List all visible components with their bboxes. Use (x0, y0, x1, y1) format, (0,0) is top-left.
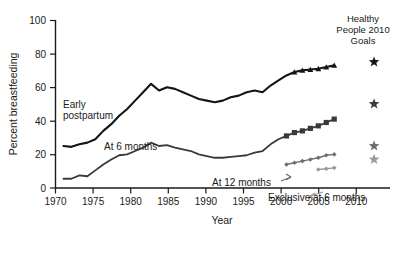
data-point-marker (332, 166, 337, 171)
data-point-marker (324, 120, 329, 125)
goal-title-line-2: People 2010 (336, 24, 389, 35)
series-exclusive-at-6-months (316, 166, 337, 172)
x-tick-label-1985: 1985 (157, 196, 180, 207)
y-axis: 100 80 60 40 20 0 Percent breastfeeding (7, 15, 56, 194)
goal-star-marker (369, 140, 380, 150)
goal-markers-layer (369, 56, 380, 164)
goal-star-marker (369, 56, 380, 66)
data-point-marker (308, 126, 313, 131)
annotation-at-12-months: At 12 months (212, 177, 271, 188)
annotation-early: Early (63, 99, 86, 110)
y-tick-label-60: 60 (35, 82, 47, 93)
y-tick-label-40: 40 (35, 116, 47, 127)
y-tick-label-80: 80 (35, 49, 47, 60)
goal-title-line-3: Goals (351, 35, 376, 46)
x-tick-label-1970: 1970 (44, 196, 67, 207)
data-point-marker (332, 117, 337, 122)
data-point-marker (316, 123, 321, 128)
y-tick-label-100: 100 (29, 15, 46, 26)
x-tick-label-1990: 1990 (195, 196, 218, 207)
data-point-marker (308, 157, 313, 162)
data-point-marker (284, 133, 289, 138)
series-at-12-months (284, 152, 336, 167)
data-point-marker (284, 162, 289, 167)
goal-star-marker (369, 98, 380, 108)
y-tick-label-0: 0 (40, 183, 46, 194)
y-tick-label-20: 20 (35, 149, 47, 160)
chart-figure: 100 80 60 40 20 0 Percent breastfeeding … (0, 0, 400, 257)
goal-star-marker (369, 154, 380, 164)
annotation-postpartum: postpartum (63, 110, 113, 121)
y-axis-ticks (50, 21, 56, 189)
data-point-marker (332, 152, 337, 157)
data-point-marker (292, 161, 297, 166)
y-axis-title: Percent breastfeeding (7, 52, 19, 155)
x-axis-title: Year (211, 214, 233, 226)
goal-title-block: Healthy People 2010 Goals (336, 13, 389, 46)
x-tick-label-1975: 1975 (82, 196, 105, 207)
data-point-marker (300, 128, 305, 133)
x-tick-label-1980: 1980 (120, 196, 143, 207)
goal-title-line-1: Healthy (347, 13, 379, 24)
annotation-at-6-months: At 6 months (104, 141, 157, 152)
data-point-marker (324, 166, 329, 171)
data-point-marker (300, 159, 305, 164)
x-tick-label-1995: 1995 (232, 196, 255, 207)
data-point-marker (292, 130, 297, 135)
data-point-marker (316, 155, 321, 160)
breastfeeding-trends-chart: 100 80 60 40 20 0 Percent breastfeeding … (0, 0, 400, 257)
data-point-marker (316, 167, 321, 172)
data-point-marker (324, 153, 329, 158)
